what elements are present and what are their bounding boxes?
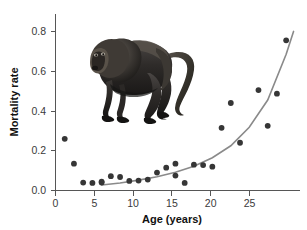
x-tick-label-2: 10 xyxy=(127,197,139,209)
data-point xyxy=(209,164,215,170)
data-point xyxy=(145,177,151,183)
x-tick-label-3: 15 xyxy=(166,197,178,209)
data-point xyxy=(237,140,243,146)
data-point xyxy=(108,173,114,179)
data-point xyxy=(126,178,132,184)
y-tick-label-2: 0.4 xyxy=(31,105,46,117)
data-point xyxy=(265,123,271,129)
data-point xyxy=(219,125,225,131)
data-point xyxy=(154,170,160,176)
data-point xyxy=(99,179,105,185)
data-point xyxy=(173,173,179,179)
data-points-group xyxy=(62,37,289,185)
data-point xyxy=(71,161,77,167)
data-point xyxy=(256,87,262,93)
fitted-curve xyxy=(102,31,294,185)
x-tick-label-4: 20 xyxy=(205,197,217,209)
data-point xyxy=(163,165,169,171)
data-point xyxy=(191,162,197,168)
x-tick-label-1: 5 xyxy=(91,197,97,209)
y-axis-ticks xyxy=(51,32,56,191)
data-point xyxy=(90,180,96,186)
y-axis-title: Mortality rate xyxy=(8,67,20,136)
y-tick-label-4: 0.8 xyxy=(31,25,46,37)
data-point xyxy=(228,100,234,106)
y-tick-label-0: 0.0 xyxy=(31,184,46,196)
mortality-rate-scatter-figure: 0.0 0.2 0.4 0.6 0.8 0 5 10 15 20 25 Age … xyxy=(0,0,307,230)
data-point xyxy=(173,161,179,167)
x-axis-title: Age (years) xyxy=(142,213,202,225)
data-point xyxy=(274,91,280,97)
y-tick-label-3: 0.6 xyxy=(31,65,46,77)
data-point xyxy=(117,174,123,180)
x-axis-ticks xyxy=(56,191,250,196)
data-point xyxy=(62,136,68,142)
data-point xyxy=(182,180,188,186)
x-tick-label-5: 25 xyxy=(244,197,256,209)
data-point xyxy=(200,162,206,168)
data-point xyxy=(283,37,289,43)
scatter-plot: 0.0 0.2 0.4 0.6 0.8 0 5 10 15 20 25 Age … xyxy=(0,0,307,230)
y-tick-label-1: 0.2 xyxy=(31,144,46,156)
x-tick-label-0: 0 xyxy=(53,197,59,209)
data-point xyxy=(80,180,86,186)
data-point xyxy=(136,178,142,184)
